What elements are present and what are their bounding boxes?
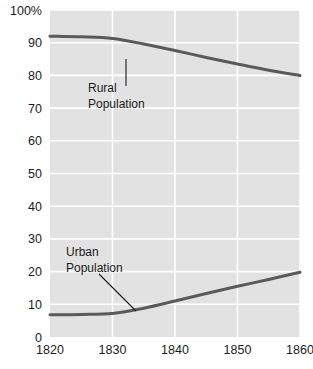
x-tick-label: 1840 <box>161 343 189 357</box>
y-tick-label: 80 <box>28 69 42 83</box>
y-tick-label: 100% <box>10 4 42 18</box>
y-tick-label: 60 <box>28 134 42 148</box>
x-tick-label: 1850 <box>224 343 252 357</box>
annotation-label-line-2: Population <box>66 261 123 275</box>
annotation-label-line-2: Population <box>88 97 145 111</box>
annotation-label-line-1: Rural <box>88 81 117 95</box>
x-tick-label: 1830 <box>99 343 127 357</box>
y-tick-label: 70 <box>28 102 42 116</box>
y-tick-label: 30 <box>28 232 42 246</box>
annotation-label-line-1: Urban <box>66 245 99 259</box>
y-tick-label: 20 <box>28 265 42 279</box>
population-line-chart: 0102030405060708090100% 1820183018401850… <box>0 0 313 369</box>
chart-container: 0102030405060708090100% 1820183018401850… <box>0 0 313 369</box>
x-tick-label: 1860 <box>286 343 313 357</box>
y-tick-label: 40 <box>28 200 42 214</box>
y-tick-label: 90 <box>28 36 42 50</box>
y-tick-label: 10 <box>28 298 42 312</box>
y-tick-label: 50 <box>28 167 42 181</box>
x-tick-label: 1820 <box>36 343 64 357</box>
